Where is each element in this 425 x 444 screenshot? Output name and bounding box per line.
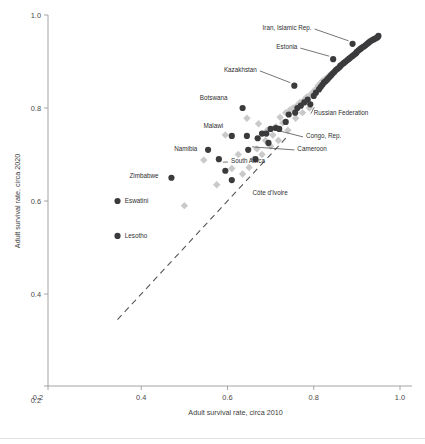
annotation-label-namibia: Namibia [174, 145, 198, 152]
data-point-male-2 [168, 175, 174, 181]
annotation-label-lesotho: Lesotho [125, 232, 148, 239]
data-point-male-9 [244, 133, 250, 139]
y-tick-label-0.6: 0.6 [31, 197, 41, 206]
bottom-divider [0, 438, 425, 444]
data-point-male-27 [307, 101, 313, 107]
x-tick-label-0.2: 0.2 [33, 393, 43, 402]
y-tick-label-0.8: 0.8 [31, 104, 41, 113]
data-point-female-4 [228, 165, 235, 172]
data-point-male-6 [229, 133, 235, 139]
identity-line [118, 138, 286, 319]
data-point-male-10 [245, 147, 251, 153]
data-point-male-8 [239, 105, 245, 111]
y-tick-label-1.0: 1.0 [31, 11, 41, 20]
identity-reference-line [118, 138, 286, 319]
data-point-female-10 [253, 145, 260, 152]
leader-line-congo-rep [280, 131, 303, 137]
x-tick-label-0.8: 0.8 [309, 393, 319, 402]
data-point-female-3 [222, 131, 229, 138]
annotation-label-estonia: Estonia [276, 43, 298, 50]
data-point-female-2 [213, 181, 220, 188]
annotation-label-eswatini: Eswatini [125, 197, 148, 204]
data-point-female-0 [181, 202, 188, 209]
data-point-male-1 [114, 198, 120, 204]
y-axis-title: Adult survival rate, circa 2020 [13, 154, 22, 248]
annotation-label-c-te-d-ivoire: Côte d'Ivoire [253, 189, 289, 196]
annotation-label-zimbabwe: Zimbabwe [129, 172, 159, 179]
x-axis-title: Adult survival rate, circa 2010 [188, 408, 282, 417]
data-point-female-7 [243, 115, 250, 122]
series-male-points [114, 33, 381, 239]
data-point-male-7 [229, 177, 235, 183]
annotation-label-congo-rep: Congo, Rep. [306, 132, 342, 140]
data-point-male-5 [222, 168, 228, 174]
scatter-plot-canvas: 0.20.40.60.81.00.20.40.60.81.0 Iran, Isl… [0, 0, 425, 444]
annotation-label-cameroon: Cameroon [297, 145, 327, 152]
data-point-male-20 [286, 111, 292, 117]
leader-line-iran-islamic-rep [315, 29, 349, 41]
data-point-male-0 [114, 233, 120, 239]
chart-figure: 0.20.40.60.81.00.20.40.60.81.0 Iran, Isl… [0, 0, 425, 444]
x-tick-label-1.0: 1.0 [395, 393, 405, 402]
data-point-male-19 [283, 119, 289, 125]
data-point-male-12 [255, 135, 261, 141]
data-point-male-3 [205, 147, 211, 153]
leader-line-kazakhstan [260, 71, 291, 83]
annotation-label-russian-federation: Russian Federation [314, 109, 369, 116]
x-tick-label-0.4: 0.4 [136, 393, 146, 402]
annotation-label-botswana: Botswana [200, 94, 228, 101]
data-point-female-11 [255, 120, 262, 127]
y-tick-label-0.4: 0.4 [31, 290, 41, 299]
data-point-male-4 [216, 156, 222, 162]
annotation-label-kazakhstan: Kazakhstan [224, 66, 257, 73]
data-point-male-39 [330, 56, 336, 62]
data-point-female-8 [245, 164, 252, 171]
data-point-male-14 [263, 130, 269, 136]
data-point-female-1 [200, 156, 207, 163]
axis-titles: Adult survival rate, circa 2010Adult sur… [13, 154, 283, 417]
annotation-label-south-africa: South Africa [231, 157, 265, 164]
annotation-label-malawi: Malawi [204, 122, 224, 129]
data-point-female-28 [299, 109, 306, 116]
data-point-male-16 [268, 126, 274, 132]
data-point-female-6 [239, 170, 246, 177]
annotation-label-iran-islamic-rep: Iran, Islamic Rep. [263, 24, 312, 32]
data-point-female-16 [269, 131, 276, 138]
data-point-female-18 [275, 137, 282, 144]
leader-line-estonia [300, 48, 329, 56]
data-point-male-52 [349, 41, 355, 47]
data-point-male-21 [291, 83, 297, 89]
data-point-male-68 [375, 33, 381, 39]
x-tick-label-0.6: 0.6 [222, 393, 232, 402]
data-point-male-15 [265, 140, 271, 146]
